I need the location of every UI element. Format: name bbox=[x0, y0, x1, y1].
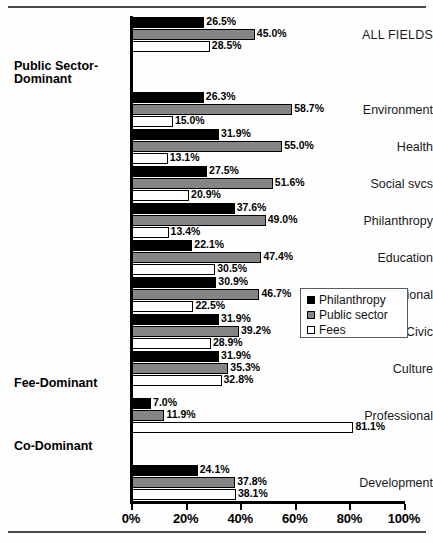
x-axis-tick bbox=[186, 504, 188, 510]
bar-value-label: 15.0% bbox=[175, 115, 205, 126]
bar-value-label: 26.3% bbox=[206, 91, 236, 102]
bar-fees bbox=[132, 338, 211, 349]
bar-philanthropy bbox=[132, 129, 219, 140]
bar-public bbox=[132, 410, 164, 421]
bar-public bbox=[132, 104, 292, 115]
legend-label: Public sector bbox=[319, 309, 388, 321]
x-axis-tick bbox=[131, 504, 133, 510]
bar-value-label: 28.9% bbox=[213, 337, 243, 348]
bar-philanthropy bbox=[132, 351, 219, 362]
plot-area: 26.5%45.0%28.5%26.3%58.7%15.0%31.9%55.0%… bbox=[0, 0, 433, 543]
bar-fees bbox=[132, 375, 222, 386]
bar-value-label: 28.5% bbox=[212, 40, 242, 51]
legend-item-philanthropy: Philanthropy bbox=[307, 293, 407, 307]
bar-value-label: 31.9% bbox=[221, 128, 251, 139]
bar-value-label: 46.7% bbox=[261, 288, 291, 299]
bar-value-label: 13.1% bbox=[170, 152, 200, 163]
category-label-all-fields: ALL FIELDS bbox=[311, 29, 433, 42]
category-label-environment: Environment bbox=[311, 104, 433, 117]
bar-philanthropy bbox=[132, 203, 235, 214]
x-axis-tick-label: 60% bbox=[265, 511, 325, 526]
bar-value-label: 30.5% bbox=[217, 263, 247, 274]
section-header-co-dominant: Co-Dominant bbox=[14, 440, 92, 453]
x-axis-line bbox=[130, 501, 405, 504]
bar-value-label: 13.4% bbox=[171, 226, 201, 237]
legend-swatch-icon bbox=[307, 326, 315, 334]
chart-legend: PhilanthropyPublic sectorFees bbox=[300, 288, 408, 338]
legend-item-public: Public sector bbox=[307, 308, 407, 322]
x-axis-tick bbox=[295, 504, 297, 510]
bar-public bbox=[132, 477, 235, 488]
bar-philanthropy bbox=[132, 398, 151, 409]
bar-value-label: 55.0% bbox=[284, 140, 314, 151]
section-header-line: Co-Dominant bbox=[14, 440, 92, 453]
x-axis-tick-label: 40% bbox=[210, 511, 270, 526]
bar-fees bbox=[132, 41, 210, 52]
bar-philanthropy bbox=[132, 277, 216, 288]
category-label-social-svcs: Social svcs bbox=[311, 178, 433, 191]
bar-value-label: 24.1% bbox=[200, 464, 230, 475]
bar-fees bbox=[132, 227, 169, 238]
category-label-philanthropy: Philanthropy bbox=[311, 215, 433, 228]
category-label-culture: Culture bbox=[311, 363, 433, 376]
legend-swatch-icon bbox=[307, 311, 315, 319]
bar-value-label: 51.6% bbox=[275, 177, 305, 188]
category-label-professional: Professional bbox=[311, 410, 433, 423]
x-axis-tick-label: 100% bbox=[374, 511, 433, 526]
chart-figure: 26.5%45.0%28.5%26.3%58.7%15.0%31.9%55.0%… bbox=[0, 0, 433, 543]
bar-value-label: 37.6% bbox=[237, 202, 267, 213]
legend-item-fees: Fees bbox=[307, 323, 407, 337]
legend-swatch-icon bbox=[307, 296, 315, 304]
bar-fees bbox=[132, 489, 236, 500]
category-label-education: Education bbox=[311, 252, 433, 265]
x-axis-tick-label: 80% bbox=[319, 511, 379, 526]
bar-value-label: 22.1% bbox=[194, 239, 224, 250]
bar-public bbox=[132, 363, 228, 374]
x-axis-tick-label: 20% bbox=[156, 511, 216, 526]
bar-fees bbox=[132, 116, 173, 127]
bar-value-label: 31.9% bbox=[221, 313, 251, 324]
bar-value-label: 22.5% bbox=[195, 300, 225, 311]
bar-value-label: 20.9% bbox=[191, 189, 221, 200]
bar-value-label: 32.8% bbox=[224, 374, 254, 385]
legend-label: Philanthropy bbox=[319, 294, 386, 306]
bar-value-label: 47.4% bbox=[263, 251, 293, 262]
bar-philanthropy bbox=[132, 166, 207, 177]
bar-value-label: 45.0% bbox=[257, 28, 287, 39]
section-header-line: Fee-Dominant bbox=[14, 377, 97, 390]
bar-value-label: 37.8% bbox=[237, 476, 267, 487]
bar-value-label: 27.5% bbox=[209, 165, 239, 176]
x-axis-tick bbox=[349, 504, 351, 510]
bar-fees bbox=[132, 422, 353, 433]
bar-fees bbox=[132, 301, 193, 312]
bar-philanthropy bbox=[132, 465, 198, 476]
section-header-fee-dominant: Fee-Dominant bbox=[14, 377, 97, 390]
bar-value-label: 35.3% bbox=[230, 362, 260, 373]
bar-fees bbox=[132, 264, 215, 275]
bar-value-label: 11.9% bbox=[166, 409, 195, 420]
bar-value-label: 31.9% bbox=[221, 350, 251, 361]
bar-philanthropy bbox=[132, 240, 192, 251]
bar-value-label: 39.2% bbox=[241, 325, 271, 336]
category-label-health: Health bbox=[311, 141, 433, 154]
section-header-line: Dominant bbox=[14, 73, 98, 86]
legend-label: Fees bbox=[319, 324, 346, 336]
bar-value-label: 26.5% bbox=[206, 16, 236, 27]
bar-philanthropy bbox=[132, 92, 204, 103]
x-axis-tick bbox=[240, 504, 242, 510]
x-axis-tick bbox=[404, 504, 406, 510]
bar-value-label: 7.0% bbox=[153, 397, 177, 408]
bar-fees bbox=[132, 153, 168, 164]
x-axis-tick-label: 0% bbox=[101, 511, 161, 526]
bar-value-label: 30.9% bbox=[218, 276, 248, 287]
bar-value-label: 38.1% bbox=[238, 488, 268, 499]
bar-value-label: 49.0% bbox=[268, 214, 298, 225]
bar-fees bbox=[132, 190, 189, 201]
bar-philanthropy bbox=[132, 314, 219, 325]
section-header-public-sector-dominant: Public Sector-Dominant bbox=[14, 60, 98, 86]
bar-philanthropy bbox=[132, 17, 204, 28]
bar-public bbox=[132, 141, 282, 152]
category-label-development: Development bbox=[311, 477, 433, 490]
